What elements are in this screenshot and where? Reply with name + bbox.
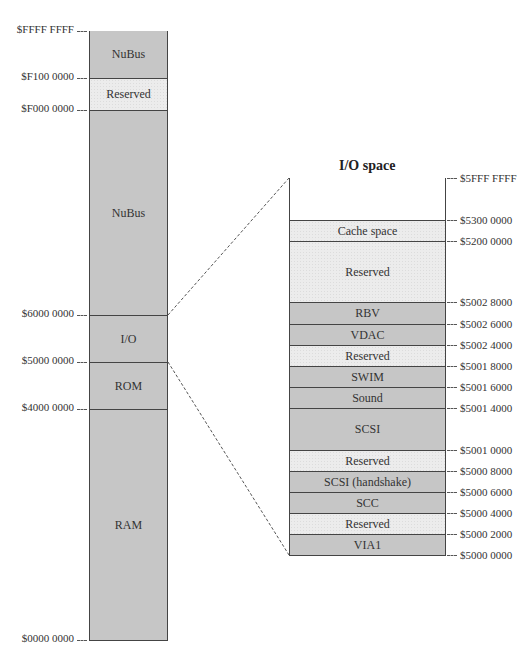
segment-label: Reserved	[345, 265, 390, 280]
memory-segment: Reserved	[290, 241, 445, 302]
address-leader-line	[447, 366, 457, 367]
segment-label: SCSI	[355, 422, 380, 437]
memory-segment: Reserved	[290, 450, 445, 471]
address-leader-line	[447, 178, 457, 179]
segment-label: Sound	[352, 391, 383, 406]
address-label: $5000 0000	[460, 549, 512, 561]
address-leader-line	[447, 324, 457, 325]
address-leader-line	[447, 241, 457, 242]
zoom-connector-lines	[0, 0, 530, 669]
segment-label: Reserved	[345, 517, 390, 532]
segment-label: VDAC	[350, 328, 384, 343]
memory-segment: SCSI (handshake)	[290, 471, 445, 492]
address-label: $5002 8000	[460, 296, 512, 308]
address-leader-line	[447, 513, 457, 514]
memory-segment: Reserved	[290, 345, 445, 366]
memory-segment: VIA1	[290, 534, 445, 555]
segment-label: RBV	[355, 306, 380, 321]
segment-label: Cache space	[338, 224, 398, 239]
address-label: $5000 2000	[460, 528, 512, 540]
memory-segment: RBV	[290, 302, 445, 324]
address-leader-line	[447, 471, 457, 472]
segment-label: Reserved	[345, 349, 390, 364]
segment-label: SWIM	[351, 370, 384, 385]
address-label: $5001 6000	[460, 381, 512, 393]
address-leader-line	[447, 450, 457, 451]
connector-bottom	[168, 362, 289, 555]
address-label: $5000 8000	[460, 465, 512, 477]
address-label: $5200 0000	[460, 235, 512, 247]
address-label: $5000 6000	[460, 486, 512, 498]
address-label: $5001 8000	[460, 360, 512, 372]
segment-label: SCSI (handshake)	[324, 475, 411, 490]
address-leader-line	[447, 534, 457, 535]
memory-segment: SCSI	[290, 408, 445, 450]
address-leader-line	[447, 492, 457, 493]
io-memory-map: Cache spaceReservedRBVVDACReservedSWIMSo…	[289, 178, 446, 556]
address-leader-line	[447, 408, 457, 409]
address-leader-line	[447, 302, 457, 303]
segment-label: SCC	[356, 496, 379, 511]
address-leader-line	[447, 220, 457, 221]
memory-segment	[290, 178, 445, 220]
address-label: $5002 4000	[460, 339, 512, 351]
memory-segment: Sound	[290, 387, 445, 408]
address-label: $5000 4000	[460, 507, 512, 519]
memory-segment: SWIM	[290, 366, 445, 387]
connector-top	[168, 178, 289, 315]
address-leader-line	[447, 387, 457, 388]
address-leader-line	[447, 345, 457, 346]
memory-segment: SCC	[290, 492, 445, 513]
memory-segment: Reserved	[290, 513, 445, 534]
address-leader-line	[447, 555, 457, 556]
address-label: $5001 0000	[460, 444, 512, 456]
io-space-title: I/O space	[339, 158, 395, 174]
segment-label: Reserved	[345, 454, 390, 469]
address-label: $5001 4000	[460, 402, 512, 414]
address-label: $5002 6000	[460, 318, 512, 330]
memory-segment: VDAC	[290, 324, 445, 345]
memory-segment: Cache space	[290, 220, 445, 241]
segment-label: VIA1	[354, 538, 381, 553]
address-label: $5300 0000	[460, 214, 512, 226]
address-label: $5FFF FFFF	[460, 172, 517, 184]
